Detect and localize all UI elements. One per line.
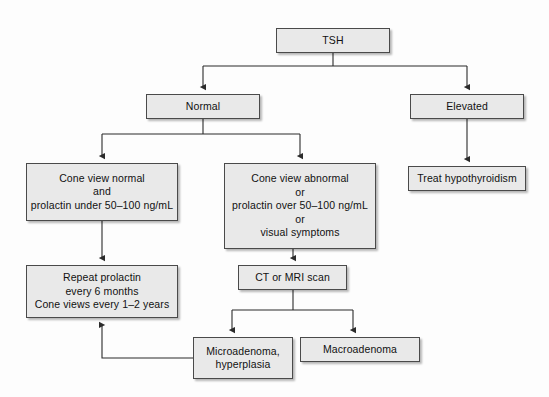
node-repeat-prolactin[interactable]: Repeat prolactin every 6 months Cone vie… — [26, 265, 178, 318]
node-normal[interactable]: Normal — [146, 94, 260, 119]
node-microadenoma[interactable]: Microadenoma, hyperplasia — [193, 337, 293, 379]
node-cone-view-abnormal[interactable]: Cone view abnormal or prolactin over 50–… — [224, 163, 376, 249]
node-tsh[interactable]: TSH — [276, 28, 390, 53]
connector-microadenoma-feedback — [102, 325, 193, 358]
node-ct-or-mri-scan[interactable]: CT or MRI scan — [238, 265, 347, 290]
node-cone-view-normal[interactable]: Cone view normal and prolactin under 50–… — [26, 163, 178, 221]
node-treat-hypothyroidism[interactable]: Treat hypothyroidism — [408, 166, 526, 191]
node-macroadenoma[interactable]: Macroadenoma — [300, 337, 420, 362]
node-elevated[interactable]: Elevated — [410, 94, 524, 119]
flowchart-canvas: TSH Normal Elevated Cone view normal and… — [0, 0, 549, 397]
